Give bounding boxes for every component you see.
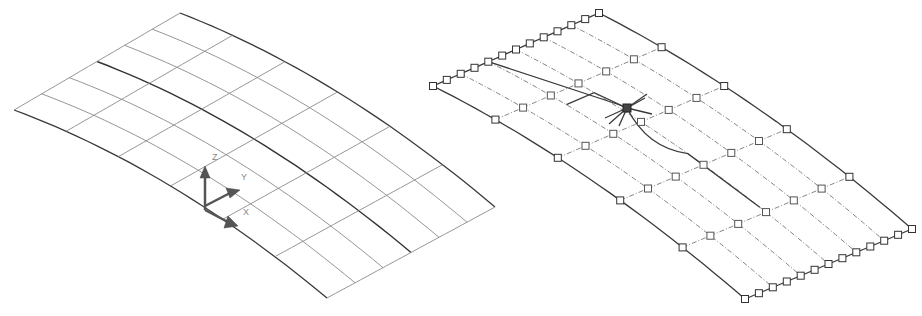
control-vertex[interactable] xyxy=(783,278,790,285)
control-vertex[interactable] xyxy=(707,232,714,239)
control-vertex[interactable] xyxy=(575,80,582,87)
isoline-v xyxy=(69,78,383,268)
control-vertex[interactable] xyxy=(582,142,589,149)
isoline-u xyxy=(327,207,495,298)
y-axis-shaft xyxy=(205,193,230,206)
left-surface[interactable] xyxy=(14,13,495,298)
control-vertex[interactable] xyxy=(693,94,700,101)
control-vertex[interactable] xyxy=(617,197,624,204)
x-axis-label: X xyxy=(243,207,249,217)
ucs-icon: Z Y X xyxy=(200,152,249,228)
control-vertex[interactable] xyxy=(471,64,478,71)
control-vertex[interactable] xyxy=(825,261,832,268)
isoline-v xyxy=(125,45,439,237)
y-axis-label: Y xyxy=(241,172,247,182)
control-vertex[interactable] xyxy=(839,255,846,262)
control-vertex[interactable] xyxy=(610,130,617,137)
y-arrow-icon xyxy=(226,188,240,198)
control-vertex[interactable] xyxy=(895,231,902,238)
control-vertex[interactable] xyxy=(853,249,860,256)
isoline-v xyxy=(42,94,355,283)
control-vertex[interactable] xyxy=(513,46,520,53)
control-vertex[interactable] xyxy=(430,83,437,90)
control-vertex[interactable] xyxy=(554,154,561,161)
control-vertex[interactable] xyxy=(457,70,464,77)
control-vertex[interactable] xyxy=(526,40,533,47)
control-vertex[interactable] xyxy=(769,284,776,291)
control-polygon-line xyxy=(571,25,884,241)
control-vertex[interactable] xyxy=(818,185,825,192)
control-vertex[interactable] xyxy=(700,161,707,168)
isoline-v xyxy=(14,110,327,298)
control-vertex[interactable] xyxy=(658,44,665,51)
control-polygon-line xyxy=(461,74,773,287)
isoline-v xyxy=(152,29,467,222)
control-vertex[interactable] xyxy=(596,10,603,17)
isoline-v xyxy=(180,13,495,207)
control-vertex[interactable] xyxy=(499,52,506,59)
isoline-u xyxy=(275,165,443,257)
selected-grip[interactable] xyxy=(623,104,631,112)
z-axis-label: Z xyxy=(212,152,218,162)
control-polygon-line xyxy=(488,62,800,276)
control-vertex[interactable] xyxy=(756,138,763,145)
surface-edge xyxy=(599,13,912,229)
deformed-edge xyxy=(566,93,627,108)
control-vertex[interactable] xyxy=(630,56,637,63)
control-vertex[interactable] xyxy=(790,197,797,204)
control-polygon-line xyxy=(516,50,829,265)
control-vertex[interactable] xyxy=(811,266,818,273)
control-vertex[interactable] xyxy=(554,28,561,35)
isoline-u xyxy=(14,13,180,110)
control-vertex[interactable] xyxy=(867,243,874,250)
control-vertex[interactable] xyxy=(603,68,610,75)
control-polygon-line xyxy=(544,37,857,252)
control-vertex[interactable] xyxy=(721,83,728,90)
control-vertex[interactable] xyxy=(443,76,450,83)
drawing-canvas[interactable]: Z Y X xyxy=(0,0,922,316)
isoline-u xyxy=(66,35,232,131)
control-vertex[interactable] xyxy=(728,149,735,156)
control-vertex[interactable] xyxy=(645,185,652,192)
control-vertex[interactable] xyxy=(742,296,749,303)
control-vertex[interactable] xyxy=(672,173,679,180)
control-vertex[interactable] xyxy=(485,58,492,65)
control-vertex[interactable] xyxy=(797,272,804,279)
control-vertex[interactable] xyxy=(783,126,790,133)
control-vertex[interactable] xyxy=(735,220,742,227)
control-vertex[interactable] xyxy=(547,92,554,99)
control-vertex[interactable] xyxy=(665,106,672,113)
control-vertex[interactable] xyxy=(846,173,853,180)
control-vertex[interactable] xyxy=(638,118,645,125)
control-vertex[interactable] xyxy=(881,237,888,244)
surface-edge xyxy=(433,86,745,299)
x-axis-shaft xyxy=(205,210,228,222)
right-surface[interactable] xyxy=(430,10,916,303)
control-vertex[interactable] xyxy=(492,116,499,123)
control-vertex[interactable] xyxy=(679,244,686,251)
control-vertex[interactable] xyxy=(520,104,527,111)
isoline-v xyxy=(97,62,411,253)
control-vertex[interactable] xyxy=(755,290,762,297)
control-vertex[interactable] xyxy=(540,34,547,41)
control-vertex[interactable] xyxy=(568,22,575,29)
isoline-u xyxy=(223,126,390,219)
control-vertex[interactable] xyxy=(582,16,589,23)
control-vertex[interactable] xyxy=(763,209,770,216)
control-vertex[interactable] xyxy=(909,226,916,233)
